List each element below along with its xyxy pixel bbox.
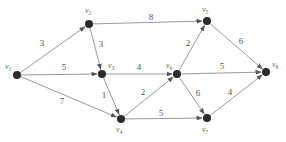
edge-v6-v7	[179, 77, 204, 114]
node-v2	[85, 20, 93, 28]
edge-weight-v6-v7: 6	[196, 88, 201, 98]
labels-layer: 35738142525664v1v2v3v4v5v6v7v8	[5, 5, 279, 135]
graph-svg: 35738142525664v1v2v3v4v5v6v7v8	[0, 0, 286, 142]
graph-diagram: 35738142525664v1v2v3v4v5v6v7v8	[0, 0, 286, 142]
node-v5	[203, 17, 211, 25]
edge-weight-v7-v8: 4	[228, 87, 233, 97]
edge-weight-v1-v4: 7	[60, 96, 65, 106]
edge-weight-v3-v6: 4	[137, 62, 142, 72]
node-v6	[173, 70, 181, 78]
edge-v7-v8	[210, 75, 262, 116]
node-label-v8: v8	[272, 60, 279, 70]
node-v4	[117, 115, 125, 123]
edge-v4-v6	[124, 77, 173, 117]
node-v7	[203, 114, 211, 122]
edge-v6-v5	[179, 25, 205, 71]
node-v3	[98, 70, 106, 78]
edge-v6-v8	[181, 72, 262, 74]
node-label-v6: v6	[166, 61, 173, 71]
edge-v2-v5	[93, 21, 203, 24]
edge-v5-v8	[210, 24, 263, 69]
node-v8	[262, 68, 270, 76]
edge-weight-v3-v4: 1	[102, 90, 107, 100]
edge-weight-v5-v8: 6	[239, 36, 244, 46]
node-label-v3: v3	[108, 61, 115, 71]
nodes-layer	[13, 17, 270, 123]
node-label-v5: v5	[202, 5, 209, 15]
node-label-v4: v4	[116, 125, 123, 135]
edges-layer	[20, 21, 262, 119]
node-label-v7: v7	[202, 125, 209, 135]
edge-weight-v4-v6: 2	[141, 87, 146, 97]
edge-weight-v1-v3: 5	[62, 62, 67, 72]
edge-weight-v4-v7: 5	[159, 108, 164, 118]
edge-v1-v2	[20, 27, 85, 73]
edge-weight-v1-v2: 3	[40, 38, 45, 48]
edge-weight-v6-v5: 2	[186, 38, 191, 48]
edge-v4-v7	[125, 118, 203, 119]
edge-weight-v2-v3: 3	[99, 39, 104, 49]
node-v1	[13, 71, 21, 79]
edge-v1-v3	[21, 74, 98, 75]
node-label-v1: v1	[5, 62, 12, 72]
edge-weight-v2-v5: 8	[149, 12, 154, 22]
edge-weight-v6-v8: 5	[220, 61, 225, 71]
node-label-v2: v2	[85, 6, 92, 16]
